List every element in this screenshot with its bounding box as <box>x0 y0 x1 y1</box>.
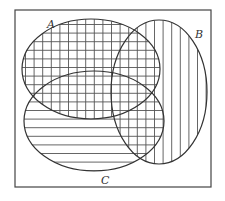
vertical-hatching <box>26 10 207 187</box>
set-c-label: C <box>101 174 110 187</box>
venn-diagram: A B C <box>0 0 225 201</box>
set-b-label: B <box>194 28 203 41</box>
universe-frame <box>15 10 211 187</box>
set-a-label: A <box>46 18 55 31</box>
set-b-outline <box>111 20 207 164</box>
